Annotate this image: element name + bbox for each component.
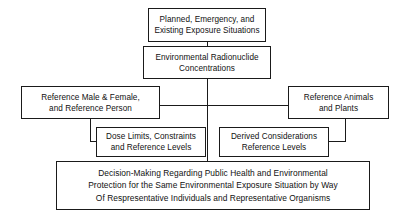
node-decision-making[interactable]: Decision-Making Regarding Public Health … — [56, 161, 370, 210]
node-reference-person-line-2: and Reference Person — [49, 103, 132, 114]
connector-reference-animals-elbow — [329, 141, 346, 142]
node-decision-line-3: Of Respresentative Individuals and Repre… — [96, 192, 330, 205]
node-reference-animals-line-2: and Plants — [319, 103, 358, 114]
node-concentrations-line-2: Concentrations — [179, 63, 235, 74]
flowchart-canvas: Planned, Emergency, and Existing Exposur… — [0, 0, 411, 221]
node-reference-animals-and-plants[interactable]: Reference Animals and Plants — [288, 86, 389, 119]
node-dose-limits-line-1: Dose Limits, Constraints — [106, 131, 196, 142]
connector-horizontal-crossbar — [160, 105, 288, 106]
node-concentrations-line-1: Environmental Radionuclide — [155, 52, 258, 63]
node-derived-line-1: Derived Considerations — [231, 131, 317, 142]
node-reference-person[interactable]: Reference Male & Female, and Reference P… — [21, 86, 160, 119]
node-decision-line-1: Decision-Making Regarding Public Health … — [98, 167, 328, 180]
node-reference-person-line-1: Reference Male & Female, — [41, 92, 140, 103]
node-exposure-situations[interactable]: Planned, Emergency, and Existing Exposur… — [148, 8, 266, 42]
node-exposure-situations-line-1: Planned, Emergency, and — [160, 14, 255, 25]
node-environmental-radionuclide-concentrations[interactable]: Environmental Radionuclide Concentration… — [143, 46, 271, 79]
node-dose-limits-line-2: and Reference Levels — [111, 142, 192, 153]
connector-reference-person-down — [90, 119, 91, 141]
connector-reference-animals-down — [345, 119, 346, 141]
connector-central-spine — [207, 79, 208, 161]
node-decision-line-2: Protection for the Same Environmental Ex… — [88, 179, 338, 192]
node-derived-considerations-reference-levels[interactable]: Derived Considerations Reference Levels — [219, 127, 329, 157]
node-derived-line-2: Reference Levels — [242, 142, 307, 153]
node-reference-animals-line-1: Reference Animals — [304, 92, 374, 103]
node-exposure-situations-line-2: Existing Exposure Situations — [154, 25, 259, 36]
node-dose-limits-constraints[interactable]: Dose Limits, Constraints and Reference L… — [96, 127, 206, 157]
